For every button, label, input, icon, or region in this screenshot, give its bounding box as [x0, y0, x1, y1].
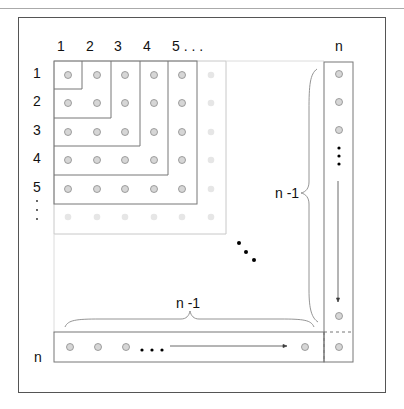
bottom-row-ellipsis — [140, 348, 163, 351]
bottom-row-dots — [67, 344, 309, 351]
right-arrow — [170, 345, 287, 348]
grid-diagram — [0, 0, 404, 409]
row-ellipsis-vertical — [36, 200, 38, 220]
vertical-brace — [301, 69, 318, 322]
diagonal-ellipsis — [237, 241, 256, 262]
right-column-ellipsis — [337, 146, 340, 165]
horizontal-brace — [65, 311, 314, 327]
down-arrow — [337, 181, 340, 302]
grid-dots — [65, 72, 186, 193]
right-column-dots — [336, 71, 343, 351]
